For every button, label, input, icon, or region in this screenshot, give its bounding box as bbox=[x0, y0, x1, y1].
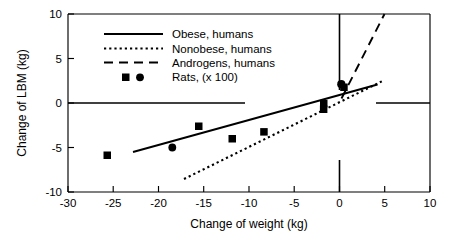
y-tick-label: 5 bbox=[56, 53, 62, 65]
scatter-plot: 10 5 0 -5 -10 -30 -25 -20 -15 -10 -5 0 5… bbox=[0, 0, 453, 251]
x-axis-title: Change of weight (kg) bbox=[190, 217, 307, 231]
x-tick-label: -5 bbox=[289, 197, 299, 209]
legend-label-rats: Rats, (x 100) bbox=[172, 71, 238, 83]
data-point-circle bbox=[168, 144, 176, 152]
chart-container: 10 5 0 -5 -10 -30 -25 -20 -15 -10 -5 0 5… bbox=[0, 0, 453, 251]
x-tick-label: -10 bbox=[241, 197, 258, 209]
legend-swatch-rats-square bbox=[122, 74, 130, 82]
legend-label-obese: Obese, humans bbox=[172, 28, 253, 40]
x-tick-label: -25 bbox=[105, 197, 122, 209]
y-tick-label: 0 bbox=[56, 97, 62, 109]
legend-label-androgens: Androgens, humans bbox=[172, 57, 275, 69]
x-tick-label: 5 bbox=[381, 197, 387, 209]
y-axis-title: Change of LBM (kg) bbox=[15, 49, 29, 156]
x-tick-label: -15 bbox=[195, 197, 212, 209]
x-tick-label: 10 bbox=[424, 197, 437, 209]
data-point-square bbox=[229, 135, 237, 143]
legend-swatch-rats-circle bbox=[136, 73, 144, 81]
data-point-square bbox=[104, 152, 112, 160]
legend-label-nonobese: Nonobese, humans bbox=[172, 43, 272, 55]
data-point-square bbox=[320, 106, 328, 114]
x-tick-label: -30 bbox=[60, 197, 77, 209]
x-tick-label: -20 bbox=[150, 197, 167, 209]
data-point-square bbox=[260, 128, 268, 136]
y-tick-label: 10 bbox=[49, 8, 62, 20]
y-tick-label: -5 bbox=[52, 142, 62, 154]
x-tick-label: 0 bbox=[336, 197, 342, 209]
data-point-circle bbox=[337, 80, 345, 88]
data-point-square bbox=[195, 123, 203, 131]
